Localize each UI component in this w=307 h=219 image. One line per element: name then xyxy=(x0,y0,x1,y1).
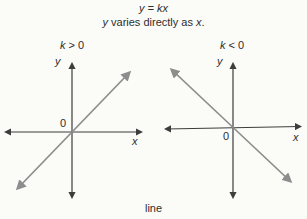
equation-description: y varies directly as x. xyxy=(0,16,307,29)
condition-k-positive: k > 0 xyxy=(46,39,98,52)
equation-title: y = kx xyxy=(0,2,307,15)
line-positive-slope xyxy=(18,73,129,188)
x-axis-label: x xyxy=(132,135,138,147)
x-axis-label: x xyxy=(293,131,299,143)
figure-caption: line xyxy=(0,202,307,215)
description-middle-text: varies directly as xyxy=(108,16,196,28)
graph-k-negative-canvas xyxy=(160,55,307,205)
origin-label: 0 xyxy=(60,117,66,129)
description-period: . xyxy=(201,16,204,28)
origin-label: 0 xyxy=(223,130,229,142)
graph-k-negative: y x 0 xyxy=(160,55,307,205)
line-negative-slope xyxy=(172,70,290,181)
condition-k-negative-relation: < 0 xyxy=(225,39,244,51)
graph-k-positive-canvas xyxy=(0,55,160,205)
condition-k-negative: k < 0 xyxy=(206,39,258,52)
y-axis-label: y xyxy=(217,55,223,67)
graph-k-positive: y x 0 xyxy=(0,55,160,205)
y-axis-label: y xyxy=(55,55,61,67)
condition-k-positive-relation: > 0 xyxy=(65,39,84,51)
figure-direct-variation: y = kx y varies directly as x. k > 0 k <… xyxy=(0,0,307,219)
